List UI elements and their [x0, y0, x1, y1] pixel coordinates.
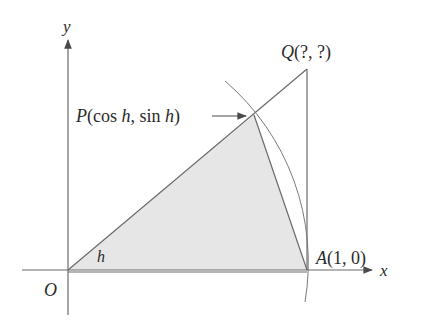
y-axis-label: y: [61, 17, 71, 36]
origin-label: O: [44, 280, 57, 300]
unit-circle-diagram: y x O h P(cos h, sin h) Q(?, ?) A(1, 0): [0, 0, 435, 327]
point-Q-label: Q(?, ?): [281, 42, 331, 63]
point-P-label: P(cos h, sin h): [75, 106, 180, 127]
shaded-triangle-OPA: [68, 115, 307, 270]
point-A-label: A(1, 0): [315, 248, 366, 269]
x-axis-label: x: [379, 261, 388, 280]
angle-label: h: [97, 248, 105, 265]
